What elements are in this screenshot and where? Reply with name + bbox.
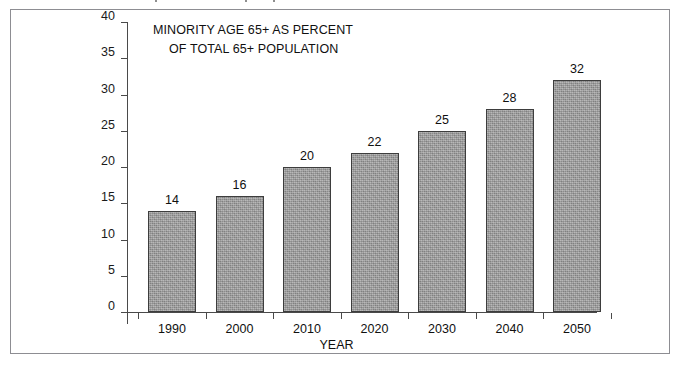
x-axis-tick-label: 2020 [343, 323, 407, 336]
bar [148, 211, 196, 313]
y-axis-tick [121, 240, 127, 241]
y-axis-tick-label: 0 [75, 300, 115, 313]
bar [486, 109, 534, 312]
bar [216, 196, 264, 312]
y-axis-tick-label: 5 [75, 264, 115, 277]
cropped-caption-ink [150, 0, 410, 3]
x-axis-tick [408, 313, 409, 319]
figure-frame: MINORITY AGE 65+ AS PERCENT OF TOTAL 65+… [10, 9, 670, 354]
chart-title-line-1: MINORITY AGE 65+ AS PERCENT [153, 21, 353, 40]
y-axis-tick-label: 10 [75, 228, 115, 241]
x-axis-tick [476, 313, 477, 319]
bar-value-label: 14 [148, 194, 196, 207]
y-axis-tick [121, 58, 127, 59]
y-axis-tick [121, 95, 127, 96]
x-axis-title: YEAR [11, 338, 671, 352]
y-axis-tick [121, 203, 127, 204]
bar [418, 131, 466, 312]
x-axis-tick-label: 2010 [275, 323, 339, 336]
bar-value-label: 16 [216, 179, 264, 192]
x-axis-tick-label: 2000 [208, 323, 272, 336]
y-axis-tick-label: 40 [75, 10, 115, 23]
x-axis-tick [206, 313, 207, 319]
bar-value-label: 25 [418, 114, 466, 127]
y-axis-tick [121, 312, 127, 313]
y-axis-line [127, 22, 128, 324]
cropped-caption-bleed [0, 0, 682, 5]
y-axis-tick [121, 22, 127, 23]
bar-value-label: 20 [283, 150, 331, 163]
y-axis-tick [121, 167, 127, 168]
bar-value-label: 28 [486, 92, 534, 105]
x-axis-tick [611, 313, 612, 319]
x-axis-tick [138, 313, 139, 319]
y-axis-tick [121, 131, 127, 132]
chart-title: MINORITY AGE 65+ AS PERCENT OF TOTAL 65+… [153, 21, 353, 59]
x-axis-tick-label: 2040 [478, 323, 542, 336]
bar-chart-plot-area: MINORITY AGE 65+ AS PERCENT OF TOTAL 65+… [11, 10, 671, 355]
bar-value-label: 32 [553, 63, 601, 76]
y-axis-tick-label: 20 [75, 155, 115, 168]
chart-title-line-2: OF TOTAL 65+ POPULATION [153, 40, 353, 59]
y-axis-tick-label: 30 [75, 83, 115, 96]
y-axis-tick [121, 276, 127, 277]
x-axis-tick [273, 313, 274, 319]
x-axis-title-text: YEAR [319, 338, 353, 352]
x-axis-tick-label: 2050 [545, 323, 609, 336]
x-axis-tick [543, 313, 544, 319]
y-axis-tick-label: 25 [75, 119, 115, 132]
bar [283, 167, 331, 312]
bar [351, 153, 399, 313]
x-axis-tick [341, 313, 342, 319]
bar [553, 80, 601, 312]
bar-value-label: 22 [351, 136, 399, 149]
y-axis-tick-label: 15 [75, 191, 115, 204]
x-axis-tick-label: 2030 [410, 323, 474, 336]
y-axis-tick-label: 35 [75, 46, 115, 59]
x-axis-line [127, 312, 597, 313]
x-axis-tick-label: 1990 [140, 323, 204, 336]
